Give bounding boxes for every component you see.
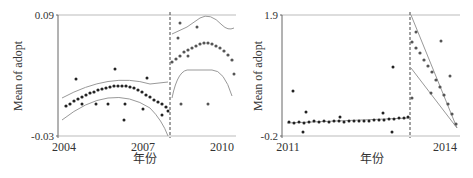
left-ytick-top: 0.09 (35, 9, 55, 21)
right-ylabel: Mean of adopt (251, 40, 265, 111)
left-ylabel: Mean of adopt (11, 40, 25, 111)
left-xtick-2: 2010 (210, 140, 234, 154)
right-xtick-1: 2014 (433, 140, 457, 154)
right-ytick-top: 1.9 (264, 9, 278, 21)
left-ytick-bottom: -0.03 (31, 130, 54, 142)
left-xlabel: 年份 (133, 152, 157, 166)
right-xtick-0: 2011 (276, 140, 300, 154)
left-xtick-0: 2004 (52, 140, 76, 154)
chart-svg: 0.09 -0.03 2004 2007 2010 年份 Mean of ado… (0, 0, 473, 178)
right-chart: 1.9 -0.2 2011 2014 年份 Mean of adopt (251, 9, 460, 166)
left-chart: 0.09 -0.03 2004 2007 2010 年份 Mean of ado… (11, 9, 236, 166)
figure: 0.09 -0.03 2004 2007 2010 年份 Mean of ado… (0, 0, 473, 178)
right-xlabel: 年份 (360, 152, 384, 166)
